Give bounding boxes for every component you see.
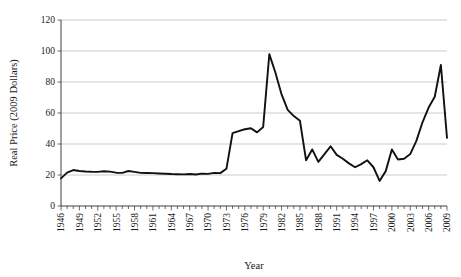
x-tick-label: 2006 — [424, 213, 434, 232]
x-axis-title: Year — [244, 260, 264, 271]
x-tick-label: 1964 — [167, 213, 177, 232]
x-axis-minor-ticks — [61, 206, 447, 211]
price-series-line — [61, 54, 447, 181]
x-tick-label: 1973 — [222, 213, 232, 232]
x-tick-label: 2000 — [387, 213, 397, 232]
x-tick-label: 1958 — [130, 213, 140, 232]
x-tick-label: 1988 — [314, 213, 324, 232]
x-tick-label: 2003 — [406, 213, 416, 232]
x-axis-tick-labels: 1946194919521955195819611964196719701973… — [56, 213, 452, 232]
x-tick-label: 1967 — [185, 213, 195, 232]
y-tick-label: 100 — [41, 46, 56, 56]
x-tick-label: 1985 — [295, 213, 305, 232]
chart-canvas: 020406080100120 194619491952195519581961… — [0, 0, 461, 277]
y-axis-title: Real Price (2009 Dollars) — [8, 59, 20, 167]
x-tick-label: 1961 — [148, 213, 158, 232]
oil-price-line-chart: 020406080100120 194619491952195519581961… — [0, 0, 461, 277]
y-tick-label: 20 — [46, 170, 56, 180]
x-tick-label: 1997 — [369, 213, 379, 232]
y-tick-label: 80 — [46, 77, 56, 87]
x-tick-label: 1991 — [332, 213, 342, 232]
x-tick-label: 1994 — [350, 213, 360, 232]
x-tick-label: 1946 — [56, 213, 66, 232]
x-tick-label: 1955 — [112, 213, 122, 232]
y-axis-tick-labels: 020406080100120 — [41, 15, 56, 211]
x-tick-label: 1952 — [93, 213, 103, 232]
x-tick-label: 1976 — [240, 213, 250, 232]
x-tick-label: 1982 — [277, 213, 287, 232]
y-tick-label: 40 — [46, 139, 56, 149]
x-tick-label: 2009 — [442, 213, 452, 232]
x-tick-label: 1970 — [203, 213, 213, 232]
y-gridlines — [61, 20, 447, 175]
y-tick-label: 60 — [46, 108, 56, 118]
y-tick-label: 0 — [50, 201, 55, 211]
x-tick-label: 1949 — [75, 213, 85, 232]
x-tick-label: 1979 — [259, 213, 269, 232]
y-tick-label: 120 — [41, 15, 56, 25]
